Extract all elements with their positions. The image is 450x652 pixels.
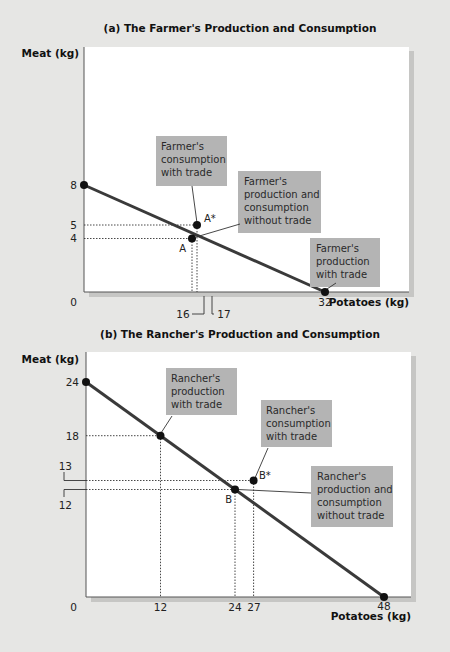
- tick-x-17: 17: [217, 308, 230, 320]
- svg-text:Farmer's: Farmer's: [244, 176, 287, 187]
- svg-text:Rancher's: Rancher's: [317, 471, 366, 482]
- tick-y-4: 4: [70, 232, 77, 244]
- tick-leader-13: [64, 472, 86, 481]
- svg-text:Farmer's: Farmer's: [161, 141, 204, 152]
- point-A-star: [193, 221, 201, 229]
- svg-text:consumption: consumption: [244, 202, 309, 213]
- label-B-star: B*: [259, 470, 271, 481]
- label-A-star: A*: [204, 213, 216, 224]
- tick-y-8: 8: [70, 179, 77, 191]
- panel-b-title: (b) The Rancher's Production and Consump…: [100, 328, 380, 340]
- panel-a-title: (a) The Farmer's Production and Consumpt…: [104, 22, 377, 34]
- tick-x-12: 12: [154, 601, 167, 613]
- point-b-x-intercept: [380, 593, 388, 601]
- svg-text:consumption: consumption: [161, 154, 226, 165]
- label-B: B: [225, 494, 232, 505]
- svg-text:with trade: with trade: [316, 269, 367, 280]
- figure: (a) The Farmer's Production and Consumpt…: [0, 0, 450, 652]
- svg-text:Farmer's: Farmer's: [316, 243, 359, 254]
- point-B: [231, 486, 239, 494]
- label-A: A: [179, 243, 186, 254]
- tick-x-32: 32: [318, 296, 331, 308]
- svg-text:with trade: with trade: [266, 431, 317, 442]
- svg-text:with trade: with trade: [161, 167, 212, 178]
- tick-x-27: 27: [247, 601, 260, 613]
- tick-y-13: 13: [59, 460, 72, 472]
- svg-text:production and: production and: [317, 484, 393, 495]
- point-a-x-intercept: [321, 288, 329, 296]
- tick-y-0: 0: [70, 601, 77, 613]
- tick-y-0: 0: [70, 296, 77, 308]
- x-axis-label-a: Potatoes (kg): [329, 296, 409, 308]
- svg-text:production: production: [316, 256, 370, 267]
- tick-x-24: 24: [228, 601, 242, 613]
- x-axis-label-b: Potatoes (kg): [331, 610, 411, 622]
- svg-text:production: production: [171, 386, 225, 397]
- svg-text:with trade: with trade: [171, 399, 222, 410]
- tick-y-5: 5: [70, 219, 77, 231]
- point-B-star: [250, 477, 258, 485]
- tick-leader-12: [64, 490, 86, 498]
- tick-y-18: 18: [66, 430, 79, 442]
- svg-text:without trade: without trade: [317, 510, 384, 521]
- y-axis-label-a: Meat (kg): [22, 47, 79, 59]
- point-b-production-with-trade: [157, 432, 165, 440]
- y-axis-label-b: Meat (kg): [22, 353, 79, 365]
- tick-x-48: 48: [377, 600, 390, 612]
- tick-leader-16: [192, 296, 204, 314]
- panel-b-rancher: (b) The Rancher's Production and Consump…: [22, 328, 416, 622]
- svg-text:production and: production and: [244, 189, 320, 200]
- point-A: [188, 235, 196, 243]
- callout-farmer-production-with-trade: Farmer's production with trade: [310, 238, 380, 289]
- tick-leader-17: [212, 296, 214, 314]
- point-b-y-intercept: [82, 378, 90, 386]
- svg-text:Rancher's: Rancher's: [266, 405, 315, 416]
- tick-y-12: 12: [59, 499, 72, 511]
- svg-text:consumption: consumption: [317, 497, 382, 508]
- point-a-y-intercept: [80, 181, 88, 189]
- panel-a-farmer: (a) The Farmer's Production and Consumpt…: [22, 22, 414, 320]
- svg-text:Rancher's: Rancher's: [171, 373, 220, 384]
- tick-x-16: 16: [176, 308, 190, 320]
- tick-y-24: 24: [66, 376, 80, 388]
- svg-text:without trade: without trade: [244, 215, 311, 226]
- svg-text:consumption: consumption: [266, 418, 331, 429]
